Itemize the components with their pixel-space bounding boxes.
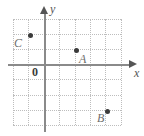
grid-layer — [0, 0, 144, 136]
gridline-horizontal — [13, 19, 121, 20]
gridline-horizontal — [13, 49, 121, 50]
point-label-c: C — [14, 37, 22, 49]
point-label-a: A — [79, 53, 86, 65]
y-axis-arrow-icon — [40, 6, 48, 14]
gridline-horizontal — [13, 95, 121, 96]
point-dot-b — [105, 109, 110, 114]
y-axis-label: y — [50, 3, 55, 15]
origin-label: 0 — [32, 66, 38, 78]
x-axis-line — [8, 64, 130, 66]
x-axis-label: x — [134, 67, 139, 79]
coordinate-plane-figure: y x 0 C A B — [0, 0, 144, 136]
gridline-horizontal — [13, 125, 121, 126]
point-label-b: B — [97, 112, 104, 124]
gridline-horizontal — [13, 79, 121, 80]
y-axis-line — [44, 14, 46, 132]
gridline-vertical — [121, 19, 122, 125]
point-dot-c — [28, 33, 33, 38]
